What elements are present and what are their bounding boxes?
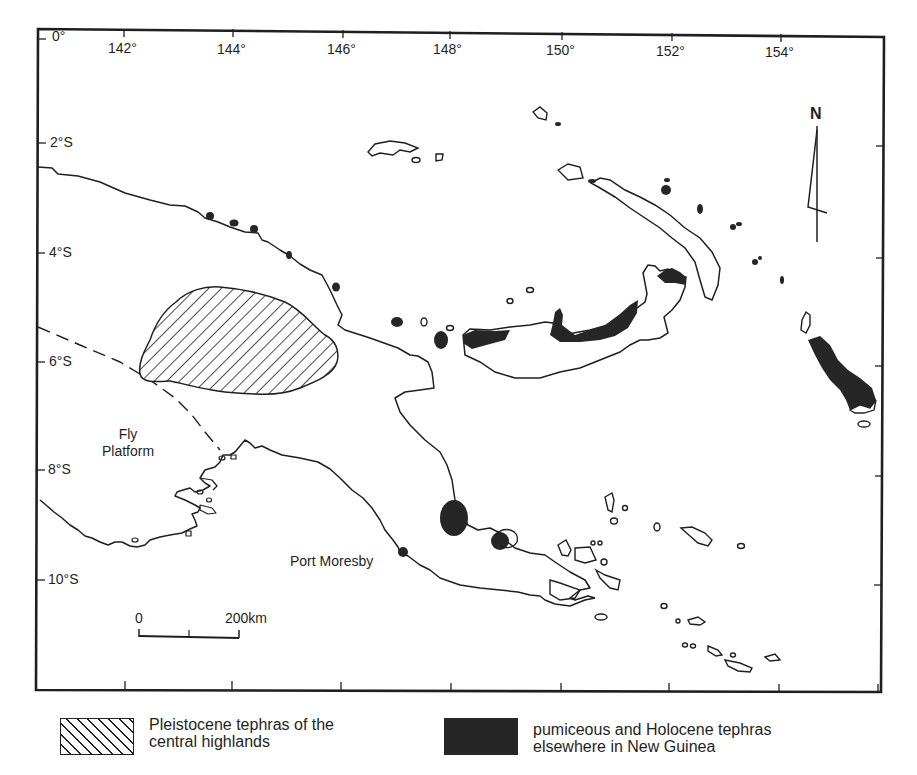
legend-label-pleistocene: Pleistocene tephras of the central highl… xyxy=(149,716,334,750)
lon-label-142: 142° xyxy=(108,40,137,56)
map-legend: Pleistocene tephras of the central highl… xyxy=(0,716,917,766)
lat-label-10s: 10°S xyxy=(48,571,79,587)
north-arrow xyxy=(808,126,827,242)
lon-label-146: 146° xyxy=(327,41,356,57)
scale-end-label: 200km xyxy=(225,610,267,627)
fly-platform-label: Fly Platform xyxy=(97,426,159,460)
legend-item-pleistocene: Pleistocene tephras of the central highl… xyxy=(60,716,334,755)
lon-label-154: 154° xyxy=(765,44,794,60)
solid-swatch-icon xyxy=(444,718,518,755)
coastline xyxy=(38,167,595,606)
north-label: N xyxy=(810,105,822,122)
legend-pleistocene-line1: Pleistocene tephras of the xyxy=(149,716,334,733)
fly-platform-label-line1: Fly xyxy=(97,426,159,443)
map-canvas xyxy=(0,0,917,775)
scale-start-label: 0 xyxy=(135,610,143,627)
lat-label-4s: 4°S xyxy=(49,244,72,260)
port-moresby-marker xyxy=(398,547,408,557)
port-moresby-label: Port Moresby xyxy=(290,553,373,570)
hatched-swatch-icon xyxy=(60,718,134,755)
pleistocene-tephra-area xyxy=(140,287,338,394)
bougainville xyxy=(808,336,876,413)
lon-label-0: 0° xyxy=(52,28,65,44)
lon-label-144: 144° xyxy=(217,41,246,57)
legend-item-holocene: pumiceous and Holocene tephras elsewhere… xyxy=(444,716,771,755)
legend-holocene-line1: pumiceous and Holocene tephras xyxy=(533,721,771,738)
legend-holocene-line2: elsewhere in New Guinea xyxy=(533,738,771,755)
lon-label-150: 150° xyxy=(546,42,575,58)
lon-label-148: 148° xyxy=(433,41,462,57)
southeast-islands xyxy=(550,493,780,672)
new-britain xyxy=(463,265,686,378)
scale-bar xyxy=(139,629,239,638)
lon-label-152: 152° xyxy=(656,43,685,59)
lat-label-6s: 6°S xyxy=(49,353,72,369)
legend-pleistocene-line2: central highlands xyxy=(149,733,334,750)
lat-label-8s: 8°S xyxy=(48,461,71,477)
fly-platform-label-line2: Platform xyxy=(97,443,159,460)
legend-label-holocene: pumiceous and Holocene tephras elsewhere… xyxy=(533,721,771,755)
northern-islands xyxy=(368,107,870,427)
lat-label-2s: 2°S xyxy=(50,134,73,150)
